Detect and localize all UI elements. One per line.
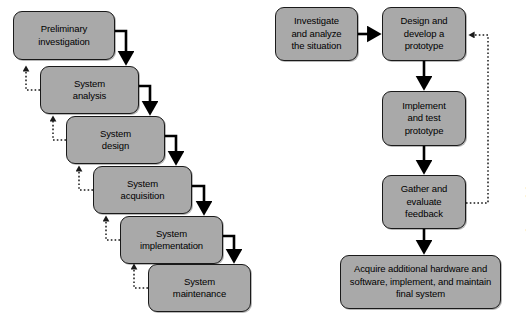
- node-label-line1: System: [137, 228, 206, 240]
- node-label-line2: and test: [399, 112, 448, 124]
- feedback-w5-to-w4: [106, 217, 120, 240]
- node-label-line3: final system: [347, 288, 494, 300]
- node-label: Investigateand analyzethe situation: [285, 15, 347, 52]
- node-label-line1: System: [97, 128, 134, 140]
- node-label-line1: Investigate: [288, 15, 344, 27]
- node-label: Systemimplementation: [134, 228, 209, 253]
- node-system-design[interactable]: Systemdesign: [66, 116, 165, 164]
- node-label: Acquire additional hardware andsoftware,…: [344, 263, 497, 300]
- arrow-w5-to-w6: [223, 236, 234, 260]
- node-system-implementation[interactable]: Systemimplementation: [120, 216, 223, 264]
- node-label: Systemanalysis: [67, 78, 113, 103]
- arrow-w3-to-w4: [165, 136, 176, 162]
- feedback-w2-to-w1: [26, 67, 40, 90]
- node-label: Implementand testprototype: [396, 100, 451, 137]
- node-system-analysis[interactable]: Systemanalysis: [40, 66, 139, 114]
- node-label-line3: prototype: [399, 125, 448, 137]
- node-label: Systemmaintenance: [167, 276, 232, 301]
- node-label: Systemacquisition: [115, 178, 171, 203]
- prototyping-feedback-connectors: [466, 35, 488, 203]
- node-label-line3: the situation: [288, 40, 344, 52]
- node-system-maintenance[interactable]: Systemmaintenance: [148, 264, 251, 312]
- node-label-line2: maintenance: [170, 288, 229, 300]
- node-label-line2: develop a: [397, 28, 450, 40]
- node-label-line2: investigation: [35, 36, 93, 48]
- node-system-acquisition[interactable]: Systemacquisition: [93, 166, 192, 214]
- arrow-w2-to-w3: [139, 86, 150, 112]
- node-design-and-develop-prototype[interactable]: Design anddevelop aprototype: [382, 7, 466, 61]
- node-label-line2: analysis: [70, 90, 110, 102]
- node-label-line1: System: [118, 178, 168, 190]
- node-implement-and-test-prototype[interactable]: Implementand testprototype: [382, 91, 466, 146]
- figure-canvas: Preliminaryinvestigation Systemanalysis …: [0, 0, 526, 326]
- node-label-line3: prototype: [397, 40, 450, 52]
- node-label-line1: Gather and: [398, 183, 451, 195]
- node-label-line2: implementation: [137, 240, 206, 252]
- node-label: Design anddevelop aprototype: [394, 15, 453, 52]
- node-label: Preliminaryinvestigation: [32, 23, 96, 48]
- arrow-w4-to-w5: [192, 186, 204, 212]
- node-label: Systemdesign: [94, 128, 137, 153]
- node-label: Gather andevaluatefeedback: [395, 183, 454, 220]
- feedback-w6-to-w5: [134, 265, 148, 288]
- node-label-line2: and analyze: [288, 28, 344, 40]
- node-label-line1: System: [70, 78, 110, 90]
- node-label-line1: Implement: [399, 100, 448, 112]
- node-label-line1: Acquire additional hardware and: [347, 263, 494, 275]
- node-label-line1: Design and: [397, 15, 450, 27]
- node-label-line2: acquisition: [118, 190, 168, 202]
- node-acquire-additional-hardware[interactable]: Acquire additional hardware andsoftware,…: [340, 255, 501, 309]
- node-preliminary-investigation[interactable]: Preliminaryinvestigation: [13, 11, 115, 60]
- feedback-p4-to-p2: [466, 35, 488, 203]
- arrow-w1-to-w2: [115, 31, 126, 62]
- feedback-w4-to-w3: [79, 167, 93, 190]
- node-label-line2: design: [97, 140, 134, 152]
- node-label-line1: System: [170, 276, 229, 288]
- node-label-line2: evaluate: [398, 196, 451, 208]
- node-label-line3: feedback: [398, 208, 451, 220]
- node-gather-and-evaluate-feedback[interactable]: Gather andevaluatefeedback: [382, 175, 466, 229]
- node-label-line1: Preliminary: [35, 23, 93, 35]
- feedback-w3-to-w2: [53, 117, 66, 140]
- node-investigate-and-analyze[interactable]: Investigateand analyzethe situation: [275, 7, 358, 61]
- node-label-line2: software, implement, and maintain: [347, 276, 494, 288]
